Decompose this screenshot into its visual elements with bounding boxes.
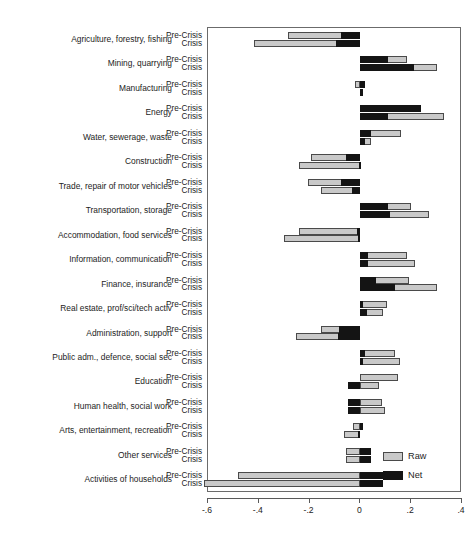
bar-segment-raw [346, 448, 360, 455]
bar-segment-net [360, 448, 370, 455]
bar-segment-net [360, 284, 394, 291]
bar-segment-net [360, 56, 388, 63]
bar-segment-net [360, 277, 375, 284]
row-label-crisis: Crisis [28, 308, 202, 317]
bar-segment-net [360, 113, 388, 120]
bar-segment-net [360, 252, 368, 259]
chart-legend: Raw Net [383, 451, 453, 483]
bar-segment-net [360, 309, 366, 316]
bar-segment-net [360, 480, 383, 487]
bar-segment-net [360, 260, 368, 267]
bar-segment-raw [346, 456, 360, 463]
legend-label-raw: Raw [408, 451, 426, 461]
bar-segment-raw [299, 228, 360, 235]
bar-segment-net [360, 105, 421, 112]
bar-segment-raw [238, 472, 360, 479]
axis-tick-label: -.6 [202, 505, 212, 515]
row-label-crisis: Crisis [28, 430, 202, 439]
bar-segment-net [360, 64, 413, 71]
bar-segment-net [360, 203, 388, 210]
axis-tick-label: 0 [357, 505, 362, 515]
bar-segment-net [360, 211, 389, 218]
plot-area [207, 27, 461, 492]
row-label-crisis: Crisis [28, 186, 202, 195]
axis-tick [359, 498, 360, 503]
axis-tick [461, 498, 462, 503]
bar-segment-net [357, 228, 361, 235]
bar-segment-net [352, 187, 361, 194]
row-label-crisis: Crisis [28, 455, 202, 464]
bar-segment-raw [360, 358, 399, 365]
legend-entry-net: Net [383, 470, 422, 480]
bar-segment-raw [360, 382, 379, 389]
x-axis: -.6-.4-.20.2.4 [207, 498, 461, 520]
bar-segment-net [346, 154, 360, 161]
bar-segment-net [358, 431, 361, 438]
bar-segment-net [348, 407, 361, 414]
bar-segment-net [348, 382, 361, 389]
axis-tick-label: .4 [457, 505, 464, 515]
row-label-crisis: Crisis [28, 88, 202, 97]
bar-segment-raw [360, 407, 384, 414]
bar-segment-net [360, 89, 363, 96]
axis-tick-label: .2 [407, 505, 414, 515]
axis-line [207, 498, 461, 499]
bar-segment-raw [360, 374, 398, 381]
axis-tick [410, 498, 411, 503]
bar-segment-net [338, 333, 361, 340]
bar-segment-net [360, 138, 365, 145]
chart-figure: Agriculture, forestry, fishingMining, qu… [0, 0, 472, 535]
row-label-crisis: Crisis [28, 283, 202, 292]
row-label-crisis: Crisis [28, 259, 202, 268]
row-label-crisis: Crisis [28, 112, 202, 121]
bar-segment-net [360, 423, 363, 430]
bar-segment-net [360, 81, 365, 88]
row-label-crisis: Crisis [28, 332, 202, 341]
row-label-crisis: Crisis [28, 234, 202, 243]
row-label-crisis: Crisis [28, 357, 202, 366]
bar-segment-raw [360, 301, 387, 308]
axis-tick-label: -.4 [253, 505, 263, 515]
row-label-crisis: Crisis [28, 39, 202, 48]
row-label-crisis: Crisis [28, 381, 202, 390]
bar-segment-net [341, 32, 360, 39]
axis-tick [258, 498, 259, 503]
legend-entry-raw: Raw [383, 451, 426, 461]
axis-tick [207, 498, 208, 503]
row-label-crisis: Crisis [28, 210, 202, 219]
bar-segment-net [360, 130, 370, 137]
bar-segment-net [360, 358, 363, 365]
bar-segment-raw [353, 423, 361, 430]
legend-swatch-net [383, 471, 403, 480]
bar-segment-net [339, 326, 361, 333]
bar-segment-net [348, 399, 361, 406]
bar-segment-raw [299, 162, 360, 169]
bar-segment-net [360, 472, 383, 479]
axis-tick [309, 498, 310, 503]
bar-segment-raw [360, 350, 394, 357]
row-label-crisis: Crisis [28, 161, 202, 170]
bar-segment-net [336, 40, 360, 47]
row-label-crisis: Crisis [28, 63, 202, 72]
bar-segment-raw [360, 399, 382, 406]
bar-segment-raw [360, 260, 415, 267]
bar-segment-net [359, 162, 361, 169]
bar-segment-raw [204, 480, 360, 487]
row-label-crisis: Crisis [28, 137, 202, 146]
bar-segment-net [360, 301, 363, 308]
bar-segment-raw [284, 235, 360, 242]
bar-segment-net [358, 235, 361, 242]
row-label-crisis: Crisis [28, 479, 202, 488]
axis-tick-label: -.2 [304, 505, 314, 515]
legend-label-net: Net [408, 470, 422, 480]
bar-segment-net [341, 179, 360, 186]
legend-swatch-raw [383, 452, 403, 461]
bar-segment-net [360, 456, 370, 463]
row-label-crisis: Crisis [28, 406, 202, 415]
bar-segment-net [360, 350, 365, 357]
